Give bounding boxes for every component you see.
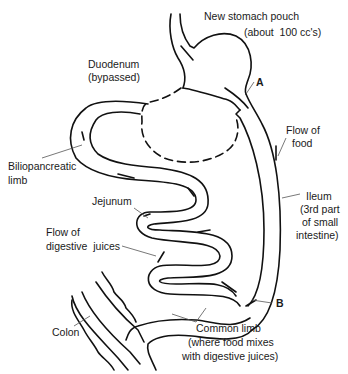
label-biliopancreatic: Biliopancreatic: [8, 160, 76, 173]
label-jejunum: Jejunum: [92, 195, 132, 208]
label-common-limb-juices: with digestive juices): [182, 350, 278, 363]
esophagus-right-wall: [180, 14, 251, 94]
biliopancreatic-flow-arrow: [82, 132, 84, 140]
pouch-flow-arrow: [181, 46, 193, 60]
flow-arrow-6: [158, 252, 164, 262]
point-b-flow-arrow: [246, 300, 256, 306]
label-colon: Colon: [52, 326, 79, 339]
label-point-b: B: [276, 297, 284, 310]
colon-wall-1: [72, 296, 128, 370]
leader-ileum: [282, 194, 300, 198]
bypass-diagram: New stomach pouch (about 100 cc's) Duode…: [0, 0, 348, 374]
flow-arrow-5: [198, 230, 210, 232]
leader-flow-juices: [122, 246, 156, 256]
colon-wall-3: [96, 282, 144, 342]
label-flow-of-juices: Flow of: [46, 226, 80, 239]
label-point-a: A: [256, 76, 264, 89]
label-stomach-pouch: New stomach pouch: [204, 10, 299, 23]
leader-flow-food: [278, 138, 286, 156]
label-food: food: [292, 137, 312, 150]
label-ileum-intestine: intestine): [296, 229, 339, 242]
label-limb: limb: [8, 174, 27, 187]
ileum-inner-wall: [236, 110, 264, 306]
label-ileum: Ileum: [306, 190, 332, 203]
esophagus-left-wall: [170, 14, 185, 88]
label-duodenum: Duodenum: [88, 58, 139, 71]
label-ileum-small: of small: [302, 216, 338, 229]
leader-biliopancreatic: [42, 145, 82, 158]
label-flow-of-food: Flow of: [286, 124, 320, 137]
label-common-limb: Common limb: [196, 322, 261, 335]
stomach-lower-wall: [183, 88, 240, 110]
label-duodenum-bypassed: (bypassed): [88, 71, 140, 84]
diagram-artwork: [0, 0, 348, 374]
label-ileum-part: (3rd part: [300, 203, 340, 216]
label-stomach-pouch-volume: (about 100 cc's): [244, 26, 321, 39]
label-digestive-juices: digestive juices: [46, 240, 120, 253]
label-common-limb-mixes: (where food mixes: [188, 336, 274, 349]
